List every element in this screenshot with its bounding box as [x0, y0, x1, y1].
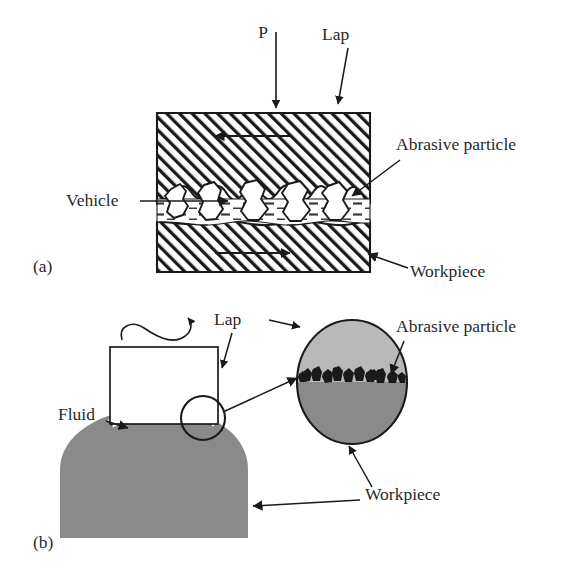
- workpiece-leader-b-inset: [349, 446, 372, 487]
- lap-leader-a: [338, 48, 348, 104]
- workpiece-dome-b: [60, 408, 248, 538]
- lap-rect-b: [110, 347, 218, 424]
- lap-leader-b-inset: [269, 320, 300, 327]
- callout-leader-b: [223, 378, 297, 412]
- lap-leader-b-rect: [222, 333, 232, 368]
- panel-b-tag: (b): [33, 532, 54, 552]
- inset-workpiece-half: [295, 382, 411, 448]
- workpiece-label-a: Workpiece: [410, 261, 486, 281]
- lapping-diagram-svg: P Lap Abrasive particle Vehicle Workpiec…: [0, 0, 568, 586]
- vehicle-label: Vehicle: [66, 190, 119, 210]
- panel-a: P Lap Abrasive particle Vehicle Workpiec…: [33, 22, 516, 281]
- abrasive-label-b: Abrasive particle: [396, 316, 516, 336]
- pressure-label: P: [258, 22, 268, 42]
- workpiece-block-a: [157, 221, 370, 272]
- abrasive-label-a: Abrasive particle: [396, 134, 516, 154]
- rotation-arrow-b: [121, 318, 191, 340]
- panel-a-tag: (a): [33, 256, 53, 276]
- workpiece-leader-b-dome: [253, 500, 360, 506]
- fluid-label-b: Fluid: [58, 404, 95, 424]
- workpiece-label-b: Workpiece: [365, 484, 441, 504]
- figure-root: P Lap Abrasive particle Vehicle Workpiec…: [0, 0, 568, 586]
- panel-b: Lap Fluid Abrasive particle Workpiece (b…: [33, 309, 516, 552]
- workpiece-leader-a: [368, 254, 408, 268]
- inset-magnifier-b: [295, 318, 411, 448]
- lap-label-b: Lap: [214, 309, 241, 329]
- lap-label-a: Lap: [322, 24, 349, 44]
